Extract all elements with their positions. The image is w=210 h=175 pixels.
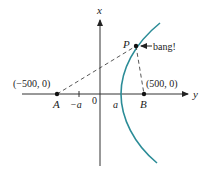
- point-P-label: P: [122, 38, 130, 50]
- point-B: [142, 92, 146, 96]
- origin-label: 0: [92, 95, 97, 106]
- point-B-coords: (500, 0): [146, 78, 178, 90]
- point-B-label: B: [140, 98, 147, 110]
- point-A-label: A: [52, 98, 60, 110]
- point-P: [134, 44, 138, 48]
- tick-pos-a-label: a: [113, 99, 118, 110]
- vertical-axis-label: x: [96, 4, 102, 16]
- point-A: [55, 92, 59, 96]
- bang-annotation: bang!: [153, 41, 176, 52]
- dashed-line-AP: [57, 46, 136, 94]
- point-A-coords: (−500, 0): [13, 78, 50, 90]
- tick-neg-a-label: −a: [70, 99, 82, 110]
- horizontal-axis-label: y: [192, 88, 198, 100]
- hyperbola-diagram: x y 0 (−500, 0) A (500, 0) B P bang! −a …: [0, 0, 210, 175]
- dashed-line-PB: [136, 46, 144, 94]
